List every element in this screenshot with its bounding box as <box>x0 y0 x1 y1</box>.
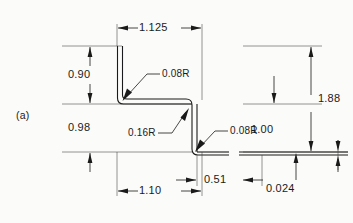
dimension-lines <box>88 26 341 194</box>
dim-label-left-lower-height: 0.98 <box>68 122 90 133</box>
leader-lower-radius <box>195 131 228 152</box>
dim-label-material-thickness: 0.024 <box>266 183 295 194</box>
radius-label-upper-bend: 0.08R <box>162 69 190 79</box>
engineering-drawing-figure: (a) 1.125 0.90 0.98 1.88 1.00 1.10 0.51 … <box>0 0 353 223</box>
dim-left-lower-height <box>88 153 93 172</box>
leader-upper-radius <box>123 74 161 101</box>
figure-label: (a) <box>16 110 29 121</box>
dim-label-left-upper-height: 0.90 <box>68 69 90 80</box>
radius-label-inner-bend: 0.16R <box>128 128 156 138</box>
drawing-canvas <box>0 0 353 223</box>
dim-right-flange-arrow <box>272 76 277 103</box>
dim-label-overall-height: 1.88 <box>318 93 340 104</box>
extension-lines <box>62 24 348 196</box>
radius-label-lower-bend: 0.08R <box>230 126 258 136</box>
leader-inner-radius <box>158 108 189 133</box>
dim-label-bottom-width: 1.10 <box>139 185 161 196</box>
dim-label-top-width: 1.125 <box>139 22 168 33</box>
part-profile <box>118 46 349 155</box>
dim-label-web-offset: 0.51 <box>204 174 226 185</box>
dim-material-thickness <box>294 140 341 180</box>
dim-overall-height <box>309 47 314 151</box>
